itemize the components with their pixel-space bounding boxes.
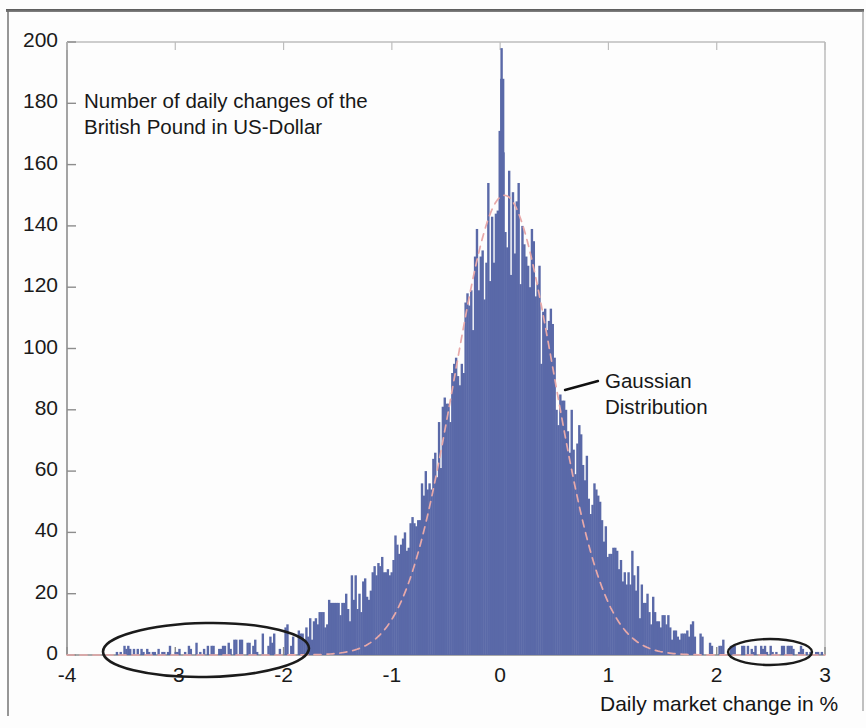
histogram-bar xyxy=(792,649,794,655)
histogram-bar xyxy=(157,649,159,655)
histogram-bar xyxy=(754,646,756,655)
histogram-bar xyxy=(783,646,785,655)
chart-title-annotation: Number of daily changes of the British P… xyxy=(84,88,368,140)
histogram-bar xyxy=(722,640,724,655)
histogram-bar xyxy=(178,649,180,655)
histogram-bar xyxy=(821,652,823,655)
x-tick-label: 1 xyxy=(578,663,638,687)
y-tick-label: 180 xyxy=(0,89,58,113)
histogram-bar xyxy=(694,637,696,655)
histogram-bar xyxy=(154,652,156,655)
histogram-bar xyxy=(701,637,703,655)
x-tick-label: -2 xyxy=(254,663,314,687)
histogram-bar xyxy=(137,649,139,655)
y-tick-label: 120 xyxy=(0,273,58,297)
scanned-page: 020406080100120140160180200 -4-3-2-10123… xyxy=(0,0,866,728)
histogram-bar xyxy=(195,643,197,655)
histogram-bar xyxy=(273,634,275,655)
histogram-bar xyxy=(279,649,281,655)
histogram-bar xyxy=(212,646,214,655)
y-tick-label: 160 xyxy=(0,151,58,175)
y-tick-label: 100 xyxy=(0,335,58,359)
histogram-bar xyxy=(235,640,237,655)
y-axis-ticks xyxy=(67,42,76,655)
histogram-bar xyxy=(133,649,135,655)
histogram-mode-spike xyxy=(500,79,504,655)
x-tick-label: 2 xyxy=(687,663,747,687)
x-tick-label: 3 xyxy=(795,663,855,687)
x-axis-caption: Daily market change in % xyxy=(600,692,838,716)
histogram-bar xyxy=(169,646,171,655)
histogram-bar xyxy=(806,652,808,655)
histogram-bar xyxy=(203,649,205,655)
histogram-bar xyxy=(129,649,131,655)
histogram-bar xyxy=(747,646,749,655)
y-tick-label: 60 xyxy=(0,457,58,481)
gaussian-leader-line xyxy=(565,381,598,390)
x-tick-label: -3 xyxy=(145,663,205,687)
y-tick-label: 140 xyxy=(0,212,58,236)
histogram-bar xyxy=(207,646,209,655)
histogram-bar xyxy=(262,634,264,655)
y-tick-label: 80 xyxy=(0,396,58,420)
y-tick-label: 20 xyxy=(0,580,58,604)
histogram-bar xyxy=(241,640,243,655)
x-tick-label: -4 xyxy=(37,663,97,687)
gaussian-annotation-label: Gaussian Distribution xyxy=(605,368,708,420)
histogram-bar xyxy=(711,646,713,655)
histogram-bar xyxy=(229,649,231,655)
histogram-bar xyxy=(286,624,288,655)
histogram-bar xyxy=(116,652,118,655)
histogram-bar xyxy=(292,637,294,655)
histogram-bar xyxy=(190,649,192,655)
histogram-bar xyxy=(734,646,736,655)
y-tick-label: 0 xyxy=(0,641,58,665)
histogram-bar xyxy=(248,643,250,655)
x-tick-label: 0 xyxy=(470,663,530,687)
x-tick-label: -1 xyxy=(362,663,422,687)
histogram-bar xyxy=(802,649,804,655)
histogram-bar xyxy=(224,646,226,655)
y-tick-label: 40 xyxy=(0,518,58,542)
histogram-bar xyxy=(743,646,745,655)
y-tick-label: 200 xyxy=(0,28,58,52)
